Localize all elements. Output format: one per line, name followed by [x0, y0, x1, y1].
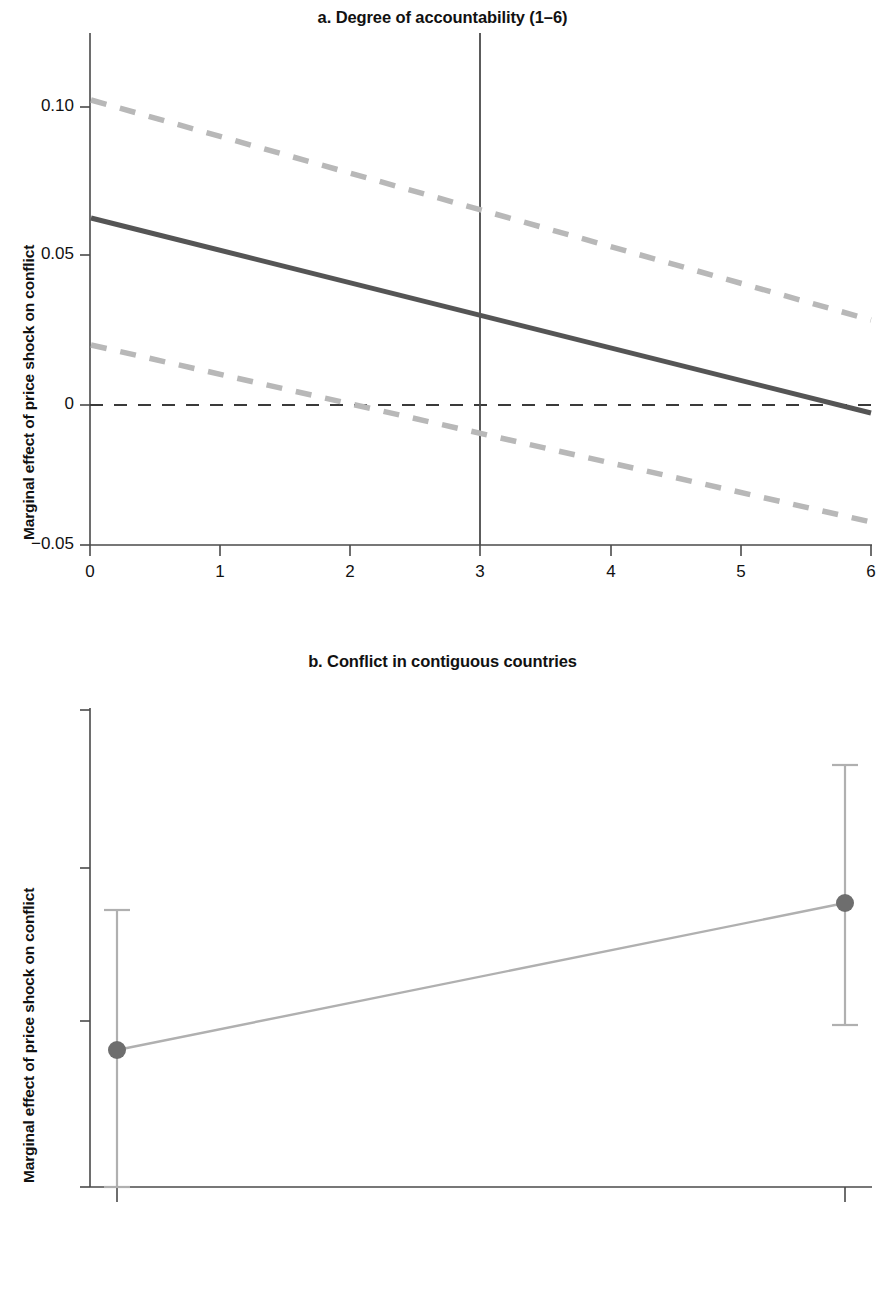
panel-a-xtick-label-2: 2 [330, 562, 370, 582]
panel-a-marginal-effect-line [91, 218, 871, 413]
panel-a-xtick-label-3: 3 [460, 562, 500, 582]
panel-a-ytick-label-0: 0.10 [2, 96, 74, 116]
panel-a-xtick-label-5: 5 [721, 562, 761, 582]
panel-b-conflict-in-contiguous-countries: b. Conflict in contiguous countries Marg… [0, 630, 885, 1299]
panel-a-xtick-label-4: 4 [591, 562, 631, 582]
panel-a-ytick-label-2: 0 [2, 394, 74, 414]
panel-a-ytick-label-1: 0.05 [2, 244, 74, 264]
panel-a-xtick-label-6: 6 [851, 562, 885, 582]
panel-a-xtick-label-0: 0 [70, 562, 110, 582]
panel-b-connector-line [117, 903, 845, 1050]
panel-b-x-ticks [117, 1187, 845, 1202]
panel-a-y-ticks [80, 107, 90, 545]
panel-b-y-ticks [80, 710, 90, 1187]
panel-a-lower-confidence-bound [91, 345, 871, 522]
panel-a-plot-area [0, 0, 885, 630]
panel-a-upper-confidence-bound [91, 100, 871, 320]
figure-container: a. Degree of accountability (1–6) Margin… [0, 0, 885, 1299]
panel-b-plot-area [0, 630, 885, 1299]
panel-a-degree-of-accountability: a. Degree of accountability (1–6) Margin… [0, 0, 885, 630]
panel-a-ytick-label-3: −0.05 [2, 534, 74, 554]
panel-a-x-ticks [90, 545, 871, 556]
panel-a-xtick-label-1: 1 [200, 562, 240, 582]
panel-b-marker-no-conflict [108, 1041, 126, 1059]
panel-b-marker-conflict [836, 894, 854, 912]
